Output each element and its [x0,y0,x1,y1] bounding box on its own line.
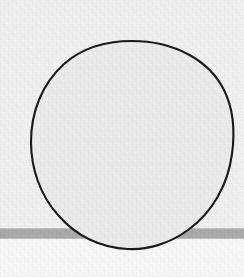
large-circle [28,38,236,252]
circle-outline-path [31,41,233,249]
image-canvas [0,0,244,277]
